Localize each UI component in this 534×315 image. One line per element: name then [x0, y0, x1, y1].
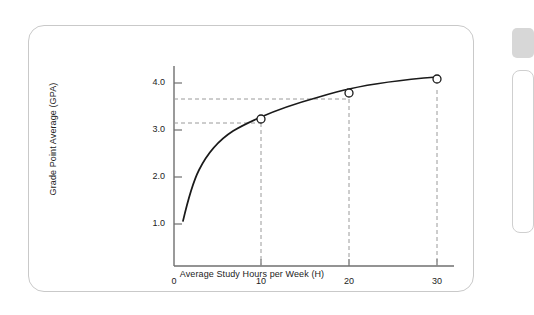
adjacent-card-top-partial [512, 28, 534, 58]
guide-lines [174, 90, 437, 266]
y-tick-label-2: 2.0 [137, 171, 165, 181]
chart-plot-area: 4.0 3.0 2.0 1.0 0 10 20 30 Grade Point A… [29, 26, 475, 293]
x-axis-title: Average Study Hours per Week (H) [29, 269, 475, 279]
y-tick-label-1: 1.0 [137, 218, 165, 228]
y-tick-label-3: 3.0 [137, 124, 165, 134]
y-axis-title: Grade Point Average (GPA) [48, 64, 58, 214]
chart-figure-card: 4.0 3.0 2.0 1.0 0 10 20 30 Grade Point A… [28, 25, 474, 292]
y-tick-label-4: 4.0 [137, 77, 165, 87]
y-tick-marks [174, 83, 182, 224]
data-point-marker-20h[interactable] [345, 89, 353, 97]
adjacent-card-bottom-partial [512, 70, 534, 233]
chart-svg [29, 26, 475, 293]
data-point-marker-30h[interactable] [433, 75, 441, 83]
data-point-marker-10h[interactable] [257, 115, 265, 123]
